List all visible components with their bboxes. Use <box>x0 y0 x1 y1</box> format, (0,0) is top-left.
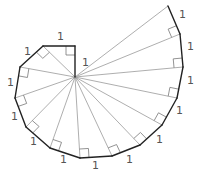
edge-length-label: 1 <box>7 76 14 89</box>
spiral-of-theodorus-diagram: 11111111111111 <box>0 0 198 179</box>
edge-length-label: 1 <box>92 159 99 172</box>
outer-edge <box>80 156 112 158</box>
outer-edge <box>15 67 20 98</box>
spoke-line <box>75 77 140 145</box>
spoke-line <box>75 77 112 156</box>
right-angle-mark <box>173 58 182 68</box>
spoke-line <box>75 77 177 98</box>
edge-labels: 11111111111111 <box>7 8 194 172</box>
spoke-line <box>50 77 75 148</box>
right-angle-mark <box>32 121 39 133</box>
edge-length-label: 1 <box>187 40 194 53</box>
outer-edge <box>180 34 183 67</box>
outer-edge <box>177 67 183 98</box>
edge-length-label: 1 <box>60 153 67 166</box>
spoke-line <box>75 67 183 77</box>
right-angle-mark <box>66 46 75 55</box>
spoke-line <box>15 77 75 98</box>
edge-length-label: 1 <box>156 133 163 146</box>
spoke-line <box>26 77 75 127</box>
edge-length-label: 1 <box>57 30 64 43</box>
spoke-line <box>75 77 80 158</box>
edge-length-label: 1 <box>187 74 194 87</box>
right-angle-mark <box>36 52 49 58</box>
edge-length-label: 1 <box>30 135 37 148</box>
edge-length-label: 1 <box>126 153 133 166</box>
edge-length-label: 1 <box>82 56 89 69</box>
spoke-line <box>75 77 162 125</box>
right-angle-mark <box>134 132 147 139</box>
edge-length-label: 1 <box>11 110 18 123</box>
right-angle-mark <box>79 148 89 157</box>
edge-length-label: 1 <box>24 45 31 58</box>
edge-length-label: 1 <box>176 104 183 117</box>
spoke-line <box>75 34 180 77</box>
outer-edge <box>162 98 177 125</box>
edge-length-label: 1 <box>179 8 186 21</box>
